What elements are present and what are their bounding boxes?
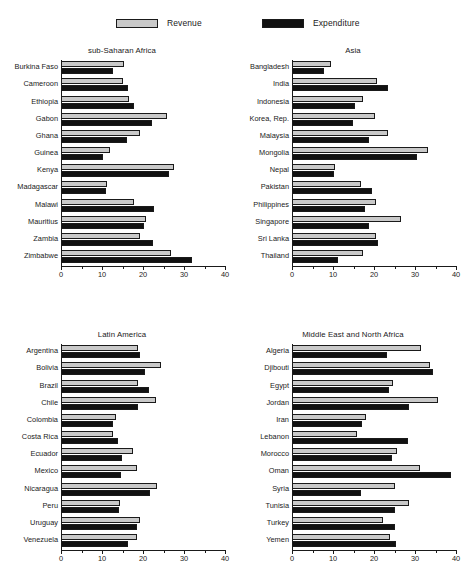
bar-expenditure: [292, 137, 369, 143]
bar-expenditure: [292, 85, 388, 91]
bar-revenue: [61, 431, 113, 437]
bar-expenditure: [292, 369, 433, 375]
category-label: Morocco: [229, 450, 289, 458]
bar-group: Bolivia: [61, 362, 225, 379]
axis-minor-tick: [82, 266, 83, 269]
bar-expenditure: [61, 455, 122, 461]
bar-revenue: [61, 362, 161, 368]
bar-group: Philippines: [292, 199, 456, 216]
legend-label-revenue: Revenue: [167, 18, 202, 28]
legend-swatch-revenue: [116, 19, 158, 28]
legend-swatch-expenditure: [262, 19, 304, 28]
bar-expenditure: [61, 387, 149, 393]
bar-expenditure: [61, 369, 145, 375]
bar-group: Gabon: [61, 113, 225, 130]
bar-revenue: [292, 517, 383, 523]
bar-revenue: [292, 61, 331, 67]
bar-revenue: [292, 78, 377, 84]
bar-revenue: [292, 534, 390, 540]
category-label: Korea, Rep.: [229, 115, 289, 123]
axis-tick-label: 0: [290, 270, 294, 279]
bar-expenditure: [61, 188, 106, 194]
bar-revenue: [61, 147, 110, 153]
axis-minor-tick: [205, 550, 206, 553]
axis-minor-tick: [313, 266, 314, 269]
axis-tick-label: 10: [98, 554, 106, 563]
chart-panel-asia: Asia BangladeshIndiaIndonesiaKorea, Rep.…: [231, 46, 461, 296]
bar-revenue: [61, 500, 120, 506]
bar-group: Egypt: [292, 380, 456, 397]
category-label: Argentina: [0, 347, 58, 355]
bar-revenue: [292, 448, 397, 454]
bar-group: Zambia: [61, 233, 225, 250]
bar-group: Chile: [61, 397, 225, 414]
bar-expenditure: [61, 541, 128, 547]
axis-tick-label: 0: [290, 554, 294, 563]
axis-tick-label: 40: [221, 270, 229, 279]
bar-revenue: [61, 250, 171, 256]
category-label: Ghana: [0, 132, 58, 140]
category-label: Gabon: [0, 115, 58, 123]
category-label: Nepal: [229, 166, 289, 174]
plot-area: BangladeshIndiaIndonesiaKorea, Rep.Malay…: [231, 60, 461, 280]
bar-revenue: [61, 199, 134, 205]
category-label: Algeria: [229, 347, 289, 355]
bar-expenditure: [292, 438, 408, 444]
category-label: Turkey: [229, 519, 289, 527]
panel-title: Latin America: [0, 330, 230, 339]
category-label: Bolivia: [0, 364, 58, 372]
category-label: Iran: [229, 416, 289, 424]
legend-label-expenditure: Expenditure: [313, 18, 359, 28]
category-label: Philippines: [229, 201, 289, 209]
axis-tick-label: 40: [221, 554, 229, 563]
bar-expenditure: [292, 223, 369, 229]
axis-minor-tick: [123, 266, 124, 269]
bar-revenue: [61, 164, 174, 170]
axis-tick-label: 30: [180, 554, 188, 563]
axis-minor-tick: [354, 266, 355, 269]
legend-entry-expenditure: Expenditure: [262, 18, 359, 28]
bar-expenditure: [292, 103, 355, 109]
bar-revenue: [61, 397, 156, 403]
bar-group: Costa Rica: [61, 431, 225, 448]
axis-tick-label: 0: [59, 270, 63, 279]
category-label: Guinea: [0, 149, 58, 157]
bar-group: Syria: [292, 483, 456, 500]
bar-group: Malawi: [61, 199, 225, 216]
axis-tick-label: 30: [180, 270, 188, 279]
axis-tick-label: 20: [370, 554, 378, 563]
bar-expenditure: [292, 472, 451, 478]
bar-revenue: [61, 130, 140, 136]
axis-minor-tick: [164, 266, 165, 269]
bar-revenue: [61, 78, 123, 84]
category-label: Egypt: [229, 382, 289, 390]
bar-expenditure: [292, 524, 395, 530]
axis-minor-tick: [164, 550, 165, 553]
bar-revenue: [61, 448, 133, 454]
bar-group: Argentina: [61, 345, 225, 362]
bar-revenue: [61, 233, 140, 239]
axis-tick-label: 40: [452, 554, 460, 563]
bar-expenditure: [61, 524, 137, 530]
bar-expenditure: [61, 85, 128, 91]
chart-legend: Revenue Expenditure: [0, 18, 461, 40]
bar-group: Uruguay: [61, 517, 225, 534]
category-label: Malaysia: [229, 132, 289, 140]
bar-revenue: [292, 96, 363, 102]
bar-group: Morocco: [292, 448, 456, 465]
category-label: Mexico: [0, 467, 58, 475]
bar-expenditure: [292, 352, 387, 358]
category-label: Yemen: [229, 536, 289, 544]
category-label: Djibouti: [229, 364, 289, 372]
bar-group: Lebanon: [292, 431, 456, 448]
bar-expenditure: [61, 240, 153, 246]
bar-expenditure: [292, 171, 334, 177]
bars-container: ArgentinaBoliviaBrazilChileColombiaCosta…: [61, 344, 225, 550]
bar-group: Ethiopia: [61, 96, 225, 113]
bar-group: Peru: [61, 500, 225, 517]
bar-expenditure: [61, 206, 154, 212]
bar-revenue: [292, 147, 428, 153]
bar-expenditure: [61, 137, 127, 143]
axis-minor-tick: [436, 550, 437, 553]
category-label: Mongolia: [229, 149, 289, 157]
